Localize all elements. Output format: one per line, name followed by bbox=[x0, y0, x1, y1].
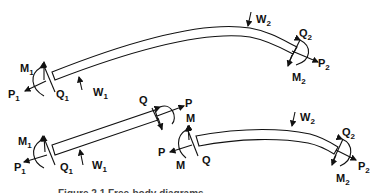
label-p: P bbox=[158, 146, 165, 158]
p-arrow bbox=[157, 106, 184, 116]
label-q2: Q2 bbox=[342, 126, 356, 141]
q1-arrow bbox=[44, 136, 45, 152]
label-p2: P2 bbox=[318, 57, 330, 72]
left-cut-line bbox=[44, 66, 55, 92]
label-m1: M1 bbox=[20, 62, 34, 77]
label-q2: Q2 bbox=[299, 27, 313, 42]
label-p: P bbox=[185, 97, 192, 109]
p2-arrow bbox=[336, 150, 356, 160]
figure-caption: Figure 2.1 Free-body diagrams bbox=[58, 188, 204, 193]
m-moment-arc bbox=[160, 106, 174, 124]
label-q: Q bbox=[202, 154, 211, 166]
label-m1: M1 bbox=[18, 135, 32, 150]
label-w1: W1 bbox=[93, 86, 108, 101]
w1-arrow bbox=[80, 150, 83, 165]
label-w1: W1 bbox=[92, 159, 107, 174]
p1-arrow bbox=[25, 81, 46, 91]
label-m2: M2 bbox=[292, 71, 306, 86]
label-p2: P2 bbox=[358, 160, 370, 175]
label-m2: M2 bbox=[336, 172, 350, 187]
label-p1: P1 bbox=[14, 161, 26, 176]
w2-arrow bbox=[248, 12, 251, 26]
label-q: Q bbox=[139, 94, 148, 106]
bottom-right-segment bbox=[170, 112, 356, 166]
bottom-left-segment bbox=[24, 106, 184, 168]
label-m-top: M bbox=[186, 112, 195, 124]
m-up-arrow bbox=[188, 126, 189, 140]
label-p1: P1 bbox=[8, 88, 20, 103]
label-q1: Q1 bbox=[60, 161, 74, 176]
label-w2: W2 bbox=[300, 111, 315, 126]
label-m-bottom: M bbox=[176, 159, 185, 171]
m1-moment-arc bbox=[33, 68, 44, 96]
label-q1: Q1 bbox=[56, 88, 70, 103]
p-arrow bbox=[170, 145, 192, 152]
q2-arrow bbox=[332, 155, 336, 165]
free-body-diagram: M1 P1 Q1 W1 W2 Q2 P2 M2 M1 P1 Q1 W1 Q P bbox=[0, 0, 383, 193]
m1-moment-arc bbox=[34, 141, 44, 168]
top-beam bbox=[25, 12, 318, 96]
w1-arrow bbox=[79, 77, 82, 90]
m-moment-arc bbox=[179, 130, 187, 158]
w2-arrow bbox=[292, 112, 295, 126]
left-cut-line bbox=[44, 138, 55, 165]
q2-arrow bbox=[288, 55, 292, 66]
label-w2: W2 bbox=[256, 13, 271, 28]
